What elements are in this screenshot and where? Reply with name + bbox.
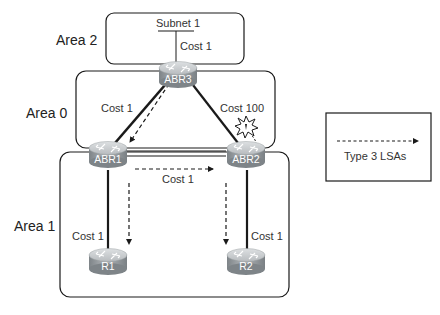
legend-label: Type 3 LSAs bbox=[344, 150, 407, 162]
router-r1[interactable]: R1 bbox=[89, 249, 127, 276]
area2-label: Area 2 bbox=[56, 32, 97, 48]
cost-abr1-r1: Cost 1 bbox=[72, 230, 104, 242]
cost-abr3-abr1: Cost 1 bbox=[101, 102, 133, 114]
router-r2-label: R2 bbox=[239, 260, 253, 272]
cost-abr2-r2: Cost 1 bbox=[251, 230, 283, 242]
router-abr2-label: ABR2 bbox=[232, 153, 260, 165]
router-r1-label: R1 bbox=[101, 260, 115, 272]
area0-label: Area 0 bbox=[26, 105, 67, 121]
subnet1-label: Subnet 1 bbox=[156, 17, 200, 29]
router-r2[interactable]: R2 bbox=[227, 249, 265, 276]
cost-abr3-abr2: Cost 100 bbox=[220, 102, 264, 114]
link-abr3-abr1 bbox=[115, 85, 165, 143]
legend: Type 3 LSAs bbox=[326, 113, 431, 181]
router-abr1[interactable]: ABR1 bbox=[89, 142, 127, 169]
area1-label: Area 1 bbox=[14, 218, 55, 234]
router-abr3[interactable]: ABR3 bbox=[159, 62, 197, 89]
cost-subnet1-abr3: Cost 1 bbox=[180, 40, 212, 52]
lsa-flow-abr3-abr1 bbox=[130, 84, 169, 142]
router-abr1-label: ABR1 bbox=[94, 153, 122, 165]
router-abr3-label: ABR3 bbox=[164, 73, 192, 85]
legend-box bbox=[326, 113, 431, 181]
link-abr3-abr2 bbox=[193, 85, 238, 143]
cost-abr1-abr2: Cost 1 bbox=[162, 173, 194, 185]
link-failure-icon bbox=[235, 116, 258, 138]
router-abr2[interactable]: ABR2 bbox=[227, 142, 265, 169]
ospf-diagram: Area 2 Area 0 Area 1 Subnet 1 Cost 1 Cos… bbox=[0, 0, 440, 315]
